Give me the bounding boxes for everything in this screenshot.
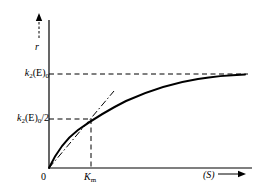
y-axis-direction-arrow-head xyxy=(36,13,42,21)
y-axis-variable-label: r xyxy=(35,42,39,52)
y-tick-vmax-paren: (E) xyxy=(33,67,46,78)
x-tick-km-sub: m xyxy=(91,176,96,184)
y-tick-label-half-vmax: k2(E)0/2 xyxy=(17,113,49,123)
x-tick-label-km: Km xyxy=(84,172,96,182)
plot-canvas xyxy=(0,0,261,194)
x-tick-km-k: K xyxy=(84,171,91,182)
y-tick-half-divisor: /2 xyxy=(41,112,49,123)
x-axis-variable-label: (S) xyxy=(203,170,215,180)
origin-label: 0 xyxy=(41,172,46,182)
initial-slope-tangent-line xyxy=(49,91,114,168)
michaelis-menten-curve xyxy=(49,75,245,169)
y-tick-vmax-paren-sub: 0 xyxy=(46,72,50,80)
michaelis-menten-figure: r k2(E)0 k2(E)0/2 0 Km (S) xyxy=(0,0,261,194)
y-tick-half-paren: (E) xyxy=(25,112,38,123)
y-tick-label-vmax: k2(E)0 xyxy=(25,68,49,78)
x-axis-direction-arrow-head xyxy=(238,171,246,177)
